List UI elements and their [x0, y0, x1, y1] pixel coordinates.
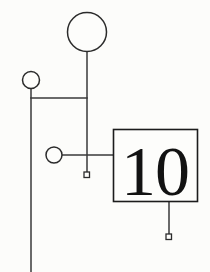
numbered-box-label: 10 [121, 133, 189, 210]
node-upper-square[interactable] [84, 172, 90, 178]
node-top-circle[interactable] [68, 13, 107, 52]
pedigree-canvas: 10 [0, 0, 210, 272]
node-lower-square[interactable] [166, 234, 172, 240]
node-numbered-box[interactable]: 10 [114, 130, 198, 211]
pedigree-diagram: 10 [0, 0, 210, 272]
node-left-circle[interactable] [23, 72, 40, 89]
node-middle-circle[interactable] [46, 147, 62, 163]
